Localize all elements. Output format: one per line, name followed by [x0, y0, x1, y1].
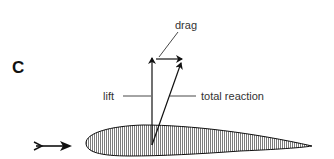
airfoil-force-diagram: C drag lift total reaction: [0, 0, 334, 159]
airflow-arrow-icon: [34, 141, 72, 151]
panel-label: C: [12, 58, 24, 77]
total-reaction-label: total reaction: [201, 90, 264, 102]
airfoil: [86, 125, 312, 156]
lift-label: lift: [103, 90, 114, 102]
drag-leader-line: [159, 32, 178, 57]
drag-label: drag: [175, 19, 197, 31]
